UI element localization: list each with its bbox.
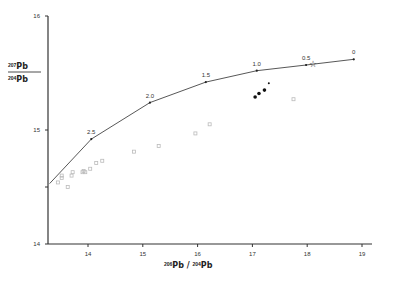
x-tick-label: 18 bbox=[304, 251, 311, 257]
square-point bbox=[292, 98, 295, 101]
age-label: 2.5 bbox=[87, 129, 96, 135]
square-point bbox=[71, 171, 74, 174]
square-point bbox=[208, 123, 211, 126]
y-label-numerator: 207Pb bbox=[8, 62, 28, 71]
y-tick-label: 15 bbox=[33, 127, 40, 133]
filled-point bbox=[253, 95, 257, 99]
square-point bbox=[133, 150, 136, 153]
x-label: 206Pb / 204Pb bbox=[164, 261, 213, 270]
lead-isotope-chart: 141516171819141516 2.52.01.51.00.50 ☆ 20… bbox=[0, 0, 394, 283]
y-tick-label: 16 bbox=[33, 13, 40, 19]
x-tick-label: 14 bbox=[85, 251, 92, 257]
square-point bbox=[66, 186, 69, 189]
data-points: ☆ bbox=[56, 59, 316, 189]
square-point bbox=[157, 144, 160, 147]
axis-labels: 207Pb204Pb206Pb / 204Pb bbox=[8, 62, 213, 270]
star-icon: ☆ bbox=[309, 59, 317, 69]
x-tick-label: 19 bbox=[359, 251, 366, 257]
y-tick-label: 14 bbox=[33, 241, 40, 247]
age-label: 0 bbox=[352, 49, 356, 55]
x-tick-label: 17 bbox=[249, 251, 256, 257]
x-tick-label: 15 bbox=[139, 251, 146, 257]
x-tick-label: 16 bbox=[194, 251, 201, 257]
square-point bbox=[70, 174, 73, 177]
square-point bbox=[56, 181, 59, 184]
age-label: 2.0 bbox=[146, 93, 155, 99]
square-point bbox=[194, 132, 197, 135]
square-point bbox=[101, 159, 104, 162]
axes: 141516171819141516 bbox=[33, 13, 372, 257]
age-label: 1.0 bbox=[253, 61, 262, 67]
filled-point bbox=[263, 88, 267, 92]
square-point bbox=[89, 167, 92, 170]
growth-curve: 2.52.01.51.00.50 bbox=[50, 49, 357, 183]
filled-point bbox=[257, 92, 261, 96]
y-label-denominator: 204Pb bbox=[8, 75, 28, 84]
age-label: 1.5 bbox=[202, 72, 211, 78]
square-point bbox=[95, 162, 98, 165]
filled-point bbox=[268, 82, 270, 84]
